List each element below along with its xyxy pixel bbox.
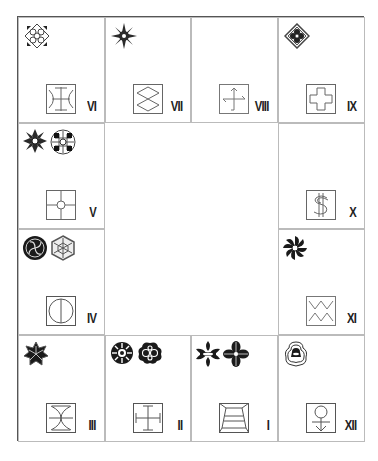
cell-XII: XII	[278, 335, 365, 442]
starburst-crest-icon	[111, 23, 137, 49]
numeral-label: XI	[347, 309, 356, 326]
bell-crest-icon	[283, 341, 309, 367]
numeral-label: III	[89, 416, 96, 433]
numeral-label: VIII	[255, 97, 269, 114]
anchor-circle-glyph-icon	[306, 403, 336, 433]
zodiac-board: VI VII VIII IX V	[17, 16, 364, 441]
snowflake-crest-icon	[23, 129, 47, 153]
cell-V: V	[18, 123, 105, 229]
numeral-label: VI	[87, 97, 96, 114]
numeral-label: IV	[87, 309, 96, 326]
numeral-label: X	[349, 203, 356, 220]
fish-cross-glyph-icon	[46, 403, 76, 433]
cell-II: II	[105, 335, 191, 442]
cell-X: X	[278, 123, 365, 229]
numeral-label: XII	[344, 416, 356, 433]
numeral-label: IX	[347, 97, 356, 114]
bracket-cross-glyph-icon	[133, 403, 163, 433]
flower-diamond-crest-icon	[284, 23, 310, 49]
zigzag-glyph-icon	[306, 296, 336, 326]
pinwheel-crest-icon	[282, 235, 308, 261]
trapezoid-frame-glyph-icon	[219, 403, 249, 433]
quartered-circle-glyph-icon	[46, 190, 76, 220]
crossed-arrows-glyph-icon	[219, 84, 249, 114]
wheel-crest-icon	[110, 341, 134, 365]
grid-circle-crest-icon	[50, 129, 76, 155]
diamond-lattice-crest-icon	[24, 23, 50, 49]
swirl-circle-crest-icon	[22, 235, 48, 261]
numeral-label: V	[89, 203, 96, 220]
cell-I: I	[191, 335, 278, 442]
cross-glyph-icon	[306, 84, 336, 114]
cell-III: III	[18, 335, 105, 442]
cell-IV: IV	[18, 229, 105, 335]
cell-VI: VI	[18, 17, 105, 123]
crescents-pillar-glyph-icon	[46, 84, 76, 114]
cell-VII: VII	[105, 17, 191, 123]
center-blank-area	[105, 123, 278, 335]
leaf-flower-crest-icon	[223, 341, 249, 367]
numeral-label: VII	[170, 97, 182, 114]
double-diamond-glyph-icon	[133, 84, 163, 114]
star-flower-crest-icon	[23, 341, 49, 367]
numeral-label: I	[267, 416, 269, 433]
fleur-crest-icon	[196, 341, 220, 367]
dollar-glyph-icon	[306, 190, 336, 220]
cell-IX: IX	[278, 17, 365, 123]
cell-XI: XI	[278, 229, 365, 335]
hexagon-crest-icon	[50, 235, 76, 261]
split-circle-glyph-icon	[46, 296, 76, 326]
numeral-label: II	[177, 416, 182, 433]
cell-VIII: VIII	[191, 17, 278, 123]
quatrefoil-crest-icon	[137, 341, 163, 365]
